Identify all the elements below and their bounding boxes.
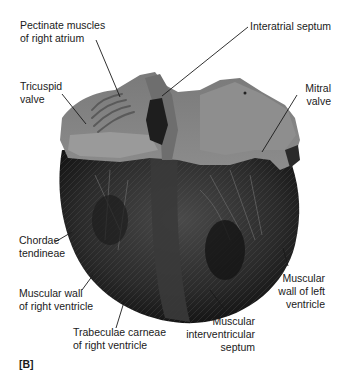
label-line: of right ventricle: [73, 339, 166, 352]
panel-label: [B]: [19, 358, 34, 370]
ventricles: [59, 150, 299, 323]
label-chordae-tendineae: Chordae tendineae: [19, 234, 65, 260]
label-line: of right ventricle: [19, 300, 93, 313]
label-line: Muscular wall: [19, 287, 93, 300]
leader-pectinate: [96, 40, 120, 97]
label-line: ventricle: [278, 298, 325, 311]
label-rv-muscular-wall: Muscular wall of right ventricle: [19, 287, 93, 313]
label-line: Pectinate muscles: [20, 19, 105, 32]
label-line: tendineae: [19, 247, 65, 260]
label-line: Muscular: [278, 272, 325, 285]
label-line: valve: [20, 93, 62, 106]
label-line: Interatrial septum: [250, 20, 331, 33]
label-line: Trabeculae carneae: [73, 326, 166, 339]
label-pectinate-muscles: Pectinate muscles of right atrium: [20, 19, 105, 45]
label-line: Chordae: [19, 234, 65, 247]
label-line: septum: [186, 341, 255, 354]
heart-diagram: Pectinate muscles of right atrium Intera…: [0, 0, 343, 379]
label-line: valve: [305, 95, 331, 108]
label-interatrial-septum: Interatrial septum: [250, 20, 331, 33]
label-tricuspid-valve: Tricuspid valve: [20, 80, 62, 106]
atria: [60, 72, 300, 170]
label-interventricular-septum: Muscular interventricular septum: [186, 315, 255, 354]
leader-trabeculae: [116, 302, 124, 328]
label-line: of right atrium: [20, 32, 105, 45]
label-line: interventricular: [186, 328, 255, 341]
label-line: Mitral: [305, 82, 331, 95]
label-trabeculae-carneae: Trabeculae carneae of right ventricle: [73, 326, 166, 352]
label-lv-muscular-wall: Muscular wall of left ventricle: [278, 272, 325, 311]
label-mitral-valve: Mitral valve: [305, 82, 331, 108]
label-line: Muscular: [186, 315, 255, 328]
heart-illustration: [0, 0, 343, 379]
label-line: wall of left: [278, 285, 325, 298]
label-line: Tricuspid: [20, 80, 62, 93]
